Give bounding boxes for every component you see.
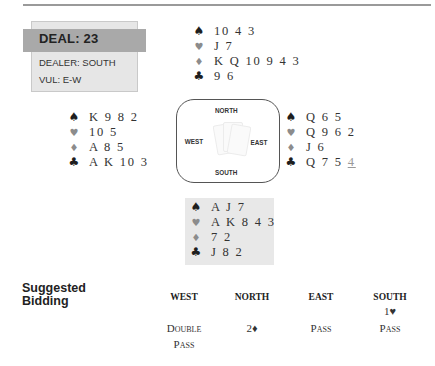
spade-icon: ♠ [191, 24, 207, 39]
diamond-icon: ♦ [188, 230, 204, 245]
west-spades: K 9 8 2 [89, 110, 139, 125]
bid-west-1: Double [154, 322, 214, 334]
west-hand: ♠K 9 8 2 ♥10 5 ♦A 8 5 ♣A K 10 3 [66, 110, 149, 170]
club-icon: ♣ [66, 155, 82, 170]
south-hand: ♠A J 7 ♥A K 8 4 3 ♦7 2 ♣J 8 2 [188, 200, 276, 260]
east-clubs-main: Q 7 5 [306, 155, 348, 169]
east-clubs-highlight: 4 [348, 155, 356, 169]
north-spades: 10 4 3 [214, 24, 256, 39]
south-diamonds: 7 2 [211, 230, 232, 245]
spade-icon: ♠ [283, 110, 299, 125]
north-diamonds: K Q 10 9 4 3 [214, 54, 301, 69]
diamond-icon: ♦ [66, 140, 82, 155]
compass-table: NORTH SOUTH WEST EAST [176, 99, 280, 183]
heart-icon: ♥ [188, 215, 204, 230]
bid-south-2: Pass [360, 322, 420, 334]
bid-col-west: WEST [154, 292, 214, 302]
deal-number: DEAL: 23 [39, 31, 98, 46]
bidding-heading: Suggested Bidding [22, 282, 86, 308]
club-icon: ♣ [283, 155, 299, 170]
heart-icon: ♥ [283, 125, 299, 140]
south-hearts: A K 8 4 3 [211, 215, 276, 230]
compass-east: EAST [251, 138, 268, 147]
west-diamonds: A 8 5 [89, 140, 125, 155]
west-hearts: 10 5 [89, 125, 118, 140]
cards-watermark-icon [213, 120, 245, 162]
bid-col-north: NORTH [222, 292, 282, 302]
south-spades: A J 7 [211, 200, 246, 215]
bid-west-2: Pass [154, 338, 214, 350]
bid-col-east: EAST [291, 292, 351, 302]
spade-icon: ♠ [188, 200, 204, 215]
east-diamonds: J 6 [306, 140, 326, 155]
east-hand: ♠Q 6 5 ♥Q 9 6 2 ♦J 6 ♣Q 7 5 4 [283, 110, 356, 170]
spade-icon: ♠ [66, 110, 82, 125]
south-clubs: J 8 2 [211, 245, 244, 260]
diamond-icon: ♦ [283, 140, 299, 155]
north-hearts: J 7 [214, 39, 234, 54]
east-hearts: Q 9 6 2 [306, 125, 356, 140]
north-clubs: 9 6 [214, 69, 235, 84]
compass-south: SOUTH [215, 168, 237, 177]
bid-south-1: 1♥ [360, 305, 420, 317]
east-clubs: Q 7 5 4 [306, 155, 356, 170]
bidding-heading-line2: Bidding [22, 295, 86, 308]
compass-west: WEST [185, 137, 203, 146]
top-divider [23, 4, 431, 6]
north-hand: ♠10 4 3 ♥J 7 ♦K Q 10 9 4 3 ♣9 6 [191, 24, 301, 84]
dealer-label: DEALER: SOUTH [39, 57, 116, 68]
heart-icon: ♥ [66, 125, 82, 140]
heart-icon: ♥ [191, 39, 207, 54]
bid-col-south: SOUTH [360, 292, 420, 302]
vulnerability-label: VUL: E-W [39, 74, 81, 85]
club-icon: ♣ [191, 69, 207, 84]
bid-north-1: 2♦ [222, 322, 282, 334]
west-clubs: A K 10 3 [89, 155, 149, 170]
east-spades: Q 6 5 [306, 110, 343, 125]
diamond-icon: ♦ [191, 54, 207, 69]
bid-east-1: Pass [291, 322, 351, 334]
club-icon: ♣ [188, 245, 204, 260]
compass-north: NORTH [215, 106, 238, 115]
